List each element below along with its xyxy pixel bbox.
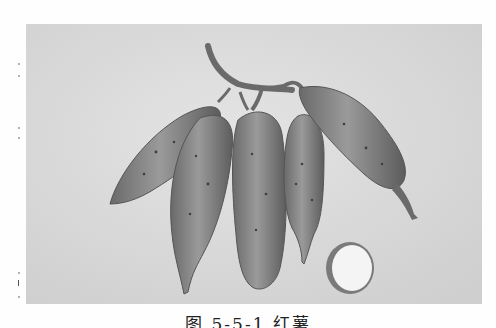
margin-mark	[18, 280, 19, 286]
sweet-potato-illustration	[26, 24, 482, 304]
margin-mark	[18, 137, 20, 139]
sweet-potato-photo	[26, 24, 482, 304]
figure-caption: 图 5-5-1 红薯	[0, 312, 496, 328]
margin-mark	[18, 127, 20, 129]
margin-mark	[18, 272, 20, 274]
margin-mark	[18, 75, 20, 77]
margin-mark	[18, 63, 20, 65]
document-page: 图 5-5-1 红薯	[0, 0, 496, 328]
margin-mark	[18, 296, 20, 298]
